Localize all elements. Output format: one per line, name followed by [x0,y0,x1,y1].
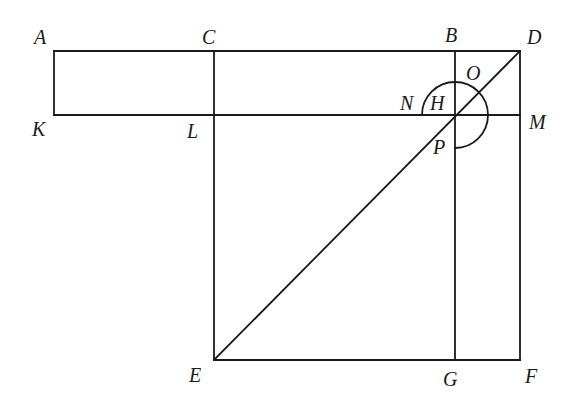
label-O: O [466,62,480,84]
label-H: H [429,92,446,114]
label-D: D [526,26,542,48]
label-K: K [31,118,47,140]
label-B: B [445,24,457,46]
label-M: M [528,111,547,133]
gnomon-diagram: A C B D K L H M N O P E G F [0,0,576,408]
label-G: G [443,368,458,390]
label-L: L [186,120,198,142]
diagonal-ED [214,51,520,360]
label-F: F [524,365,538,387]
label-C: C [202,26,216,48]
label-N: N [399,92,415,114]
label-A: A [32,26,47,48]
label-E: E [188,364,201,386]
label-P: P [432,136,445,158]
